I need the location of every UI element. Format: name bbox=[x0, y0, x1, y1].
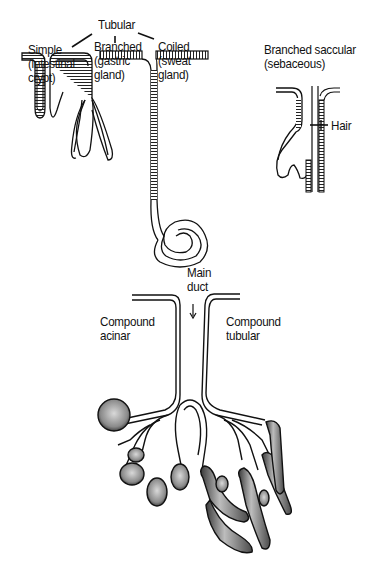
simple-gland-name: Simple bbox=[28, 43, 75, 57]
coiled-tubular-gland bbox=[142, 59, 208, 267]
simple-gland-example-1: (intestinal bbox=[28, 57, 75, 71]
compound-tubular-line-1: Compound bbox=[226, 315, 281, 329]
branched-gland-label: Branched (gastric gland) bbox=[94, 40, 142, 82]
compound-acinar-label: Compound acinar bbox=[100, 315, 155, 343]
tubular-heading: Tubular bbox=[98, 18, 135, 32]
main-duct-line-1: Main bbox=[187, 266, 211, 280]
coiled-gland-example-2: gland) bbox=[158, 68, 191, 82]
main-duct-line-2: duct bbox=[187, 280, 211, 294]
branched-saccular-gland bbox=[276, 86, 340, 192]
branched-gland-example-2: gland) bbox=[94, 68, 142, 82]
saccular-gland-label: Branched saccular (sebaceous) bbox=[264, 43, 356, 71]
hair-label: Hair bbox=[331, 119, 351, 133]
branched-gland-name: Branched bbox=[94, 40, 142, 54]
coiled-gland-example-1: (sweat bbox=[158, 54, 191, 68]
compound-acinar-line-1: Compound bbox=[100, 315, 155, 329]
main-duct-label: Main duct bbox=[187, 266, 211, 294]
saccular-gland-example: (sebaceous) bbox=[264, 57, 356, 71]
simple-gland-example-2: crypt) bbox=[28, 71, 75, 85]
coiled-gland-label: Coiled (sweat gland) bbox=[158, 40, 191, 82]
compound-tubular-line-2: tubular bbox=[226, 329, 281, 343]
coiled-gland-name: Coiled bbox=[158, 40, 191, 54]
branched-gland-example-1: (gastric bbox=[94, 54, 142, 68]
compound-tubular-label: Compound tubular bbox=[226, 315, 281, 343]
compound-tubular-units bbox=[201, 421, 292, 553]
compound-acinar-line-2: acinar bbox=[100, 329, 155, 343]
simple-gland-label: Simple (intestinal crypt) bbox=[28, 43, 75, 85]
saccular-gland-name: Branched saccular bbox=[264, 43, 356, 57]
